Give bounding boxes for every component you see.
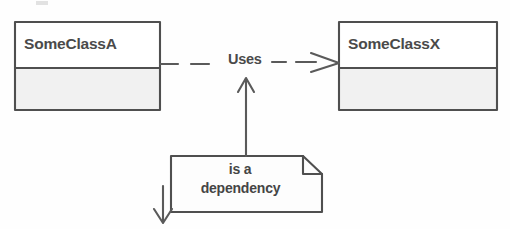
classa-body-compartment [15, 68, 160, 110]
dependency-label: Uses [228, 52, 261, 68]
note-text-line-1: is a [170, 162, 310, 177]
note-text-line-2: dependency [163, 181, 318, 196]
classx-name-label: SomeClassX [348, 36, 440, 53]
uml-dependency-diagram: SomeClassA SomeClassX Uses is a dependen… [0, 0, 510, 229]
classa-name-label: SomeClassA [24, 36, 117, 53]
classx-body-compartment [339, 68, 497, 110]
note-anchor-arrow-up [238, 78, 254, 156]
